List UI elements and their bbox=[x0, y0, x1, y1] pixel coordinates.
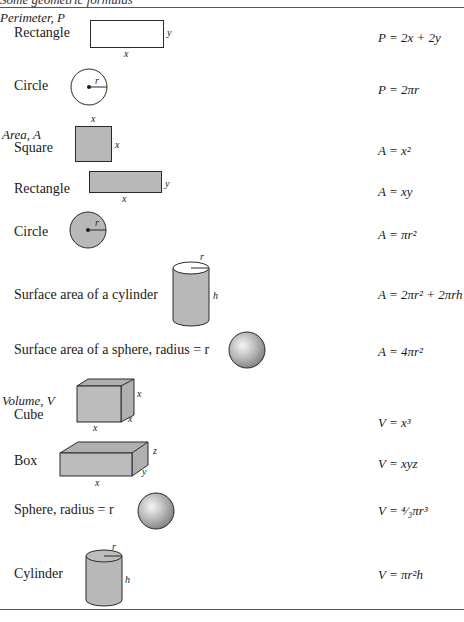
label-area-rectangle: Rectangle bbox=[14, 181, 70, 197]
dim-volume-cylinder-radius: r bbox=[112, 541, 116, 552]
label-volume-cylinder: Cylinder bbox=[14, 566, 63, 582]
dim-cylinder-height: h bbox=[213, 290, 218, 301]
dim-box-width: x bbox=[95, 477, 99, 488]
square-filled-figure bbox=[75, 126, 115, 166]
box-figure bbox=[59, 441, 154, 481]
label-area-sphere: Surface area of a sphere, radius = r bbox=[14, 342, 209, 358]
dim-area-circle-radius: r bbox=[95, 217, 99, 228]
dim-cube-width: x bbox=[93, 422, 97, 433]
dim-cube-height: x bbox=[137, 388, 141, 399]
label-volume-box: Box bbox=[14, 453, 37, 469]
label-area-circle: Circle bbox=[14, 224, 48, 240]
rectangle-filled-figure bbox=[89, 171, 169, 196]
dim-cube-depth: x bbox=[128, 413, 132, 424]
dim-volume-cylinder-height: h bbox=[125, 574, 130, 585]
sphere-figure bbox=[228, 331, 268, 371]
dim-box-depth: y bbox=[142, 466, 146, 477]
dim-circle-radius: r bbox=[95, 75, 99, 86]
dim-area-rectangle-width: x bbox=[122, 193, 126, 204]
formula-perimeter-circle: P = 2πr bbox=[378, 82, 419, 98]
formula-area-square: A = x² bbox=[378, 143, 411, 159]
formula-volume-sphere: V = ⁴⁄₃πr³ bbox=[378, 503, 428, 519]
circle-outline-figure bbox=[70, 68, 110, 108]
formula-area-rectangle: A = xy bbox=[378, 184, 413, 200]
formula-area-circle: A = πr² bbox=[378, 227, 416, 243]
top-divider bbox=[0, 7, 464, 8]
cylinder-figure bbox=[85, 548, 130, 610]
cube-figure bbox=[76, 378, 136, 428]
formula-volume-cube: V = x³ bbox=[378, 415, 411, 431]
dim-square-side: x bbox=[115, 139, 119, 150]
dim-square-top: x bbox=[91, 113, 95, 124]
dim-cylinder-radius: r bbox=[200, 251, 204, 262]
label-perimeter-circle: Circle bbox=[14, 78, 48, 94]
label-area-square: Square bbox=[14, 140, 53, 156]
dim-rectangle-width: x bbox=[124, 48, 128, 59]
label-volume-cube: Cube bbox=[14, 407, 44, 423]
label-area-cylinder: Surface area of a cylinder bbox=[14, 287, 158, 303]
sphere-figure bbox=[137, 492, 177, 532]
section-heading-perimeter: Perimeter, P bbox=[0, 10, 65, 26]
label-volume-sphere: Sphere, radius = r bbox=[14, 502, 114, 518]
dim-area-rectangle-height: y bbox=[165, 178, 169, 189]
formula-perimeter-rectangle: P = 2x + 2y bbox=[378, 30, 441, 46]
formula-volume-cylinder: V = πr²h bbox=[378, 567, 423, 583]
formula-area-cylinder: A = 2πr² + 2πrh bbox=[378, 287, 463, 303]
formula-area-sphere: A = 4πr² bbox=[378, 344, 423, 360]
cylinder-figure bbox=[172, 258, 217, 333]
rectangle-outline-figure bbox=[90, 20, 170, 50]
formula-volume-box: V = xyz bbox=[378, 456, 418, 472]
dim-rectangle-height: y bbox=[167, 27, 171, 38]
label-perimeter-rectangle: Rectangle bbox=[14, 25, 70, 41]
circle-filled-figure bbox=[69, 211, 109, 251]
bottom-divider bbox=[0, 609, 464, 610]
dim-box-height: z bbox=[153, 445, 157, 456]
